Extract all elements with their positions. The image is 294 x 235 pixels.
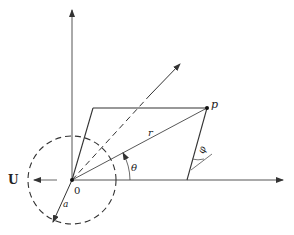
diagonal-arrow (150, 64, 180, 95)
flow-diagram: p 0 r θ φ U a (0, 0, 294, 235)
parallelogram-right-side (187, 108, 207, 180)
phi-reference-line (191, 154, 212, 170)
label-origin: 0 (74, 185, 80, 196)
label-p: p (211, 98, 218, 111)
origin-point (70, 178, 74, 182)
point-p (205, 106, 209, 110)
theta-arc (123, 153, 130, 180)
label-u: U (8, 173, 19, 187)
label-theta: θ (131, 162, 137, 173)
radius-line-r (72, 108, 207, 180)
phi-arc (192, 159, 204, 160)
label-a: a (63, 199, 68, 209)
label-phi: φ (195, 145, 208, 155)
